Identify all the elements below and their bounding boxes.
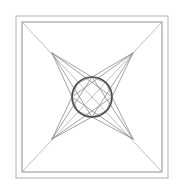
geometric-line-drawing	[0, 0, 184, 194]
figure-canvas	[0, 0, 184, 194]
